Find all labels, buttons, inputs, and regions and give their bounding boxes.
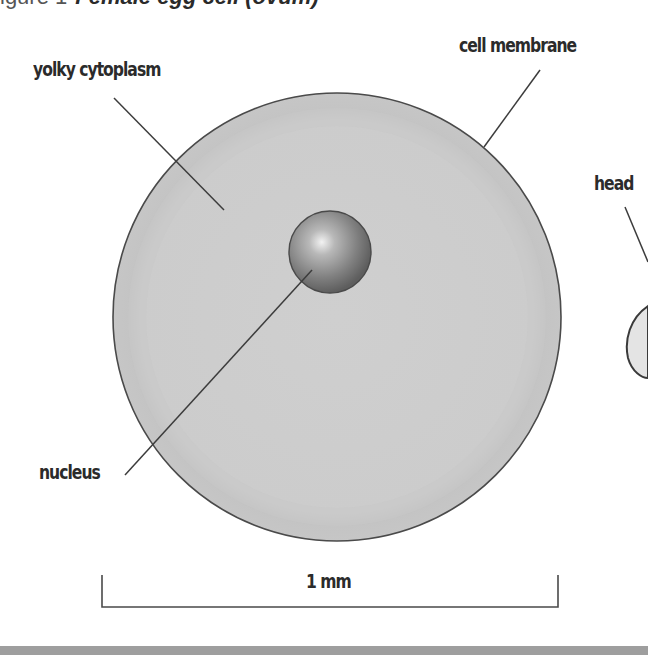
bottom-divider-band [0, 646, 648, 655]
diagram-canvas [0, 0, 648, 655]
sperm-head [627, 306, 648, 378]
egg-cell [113, 93, 561, 541]
label-scale: 1 mm [306, 570, 351, 592]
cell-membrane [113, 93, 561, 541]
label-yolky-cytoplasm: yolky cytoplasm [33, 58, 160, 80]
label-head: head [594, 172, 633, 194]
leader-line-head [625, 207, 648, 262]
label-nucleus: nucleus [39, 461, 100, 483]
egg-cell-diagram: igure 1Female egg cell (ovum) [0, 0, 648, 655]
label-cell-membrane: cell membrane [459, 34, 576, 56]
leader-line-membrane [484, 70, 540, 147]
